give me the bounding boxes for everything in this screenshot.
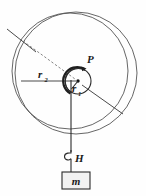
label-radius-r1-subscript: 1	[78, 90, 81, 97]
label-point-p: P	[87, 53, 94, 65]
label-mass-m: m	[72, 175, 81, 187]
diagram-background	[0, 0, 146, 196]
label-radius-r1: r	[72, 82, 77, 94]
wheel-axle-diagram: P r 2 r 1 H m	[0, 0, 146, 196]
label-hook-h: H	[74, 152, 84, 164]
figure-root: P r 2 r 1 H m	[0, 0, 146, 196]
label-radius-r2: r	[38, 68, 43, 80]
